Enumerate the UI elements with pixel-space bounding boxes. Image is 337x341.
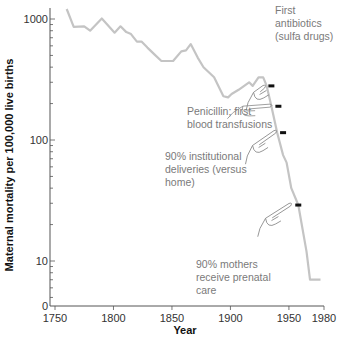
event-marker — [295, 204, 301, 207]
x-tick-label: 1900 — [218, 312, 242, 324]
x-tick-label: 1980 — [312, 312, 336, 324]
y-axis-title: Maternal mortality per 100,000 live birt… — [3, 59, 15, 272]
event-marker — [268, 84, 274, 87]
pointing-hand-icon — [251, 202, 297, 236]
annotation-text: 90% mothersreceive prenatalcare — [196, 258, 271, 296]
x-tick-label: 1800 — [101, 312, 125, 324]
pointing-hand-icon — [239, 130, 283, 165]
event-marker — [280, 131, 286, 134]
annotations: Firstantibiotics(sulfa drugs)Penicillin;… — [165, 4, 333, 296]
annotation-text: 90% institutionaldeliveries (versushome) — [165, 150, 247, 188]
mortality-line — [67, 9, 321, 280]
x-tick-label: 1950 — [277, 312, 301, 324]
event-marker — [275, 105, 281, 108]
annotation-text: Penicillin; firstblood transfusions — [187, 105, 272, 130]
x-tick-label: 1750 — [43, 312, 67, 324]
maternal-mortality-chart: 1000100100175018001850190019501980 First… — [0, 0, 337, 341]
y-tick-label: 10 — [36, 255, 48, 267]
x-axis-title: Year — [173, 324, 197, 336]
y-tick-label: 100 — [30, 134, 48, 146]
y-tick-label: 0 — [42, 300, 48, 312]
data-series — [67, 9, 321, 280]
y-tick-label: 1000 — [24, 13, 48, 25]
x-tick-label: 1850 — [160, 312, 184, 324]
annotation-text: Firstantibiotics(sulfa drugs) — [275, 4, 333, 42]
